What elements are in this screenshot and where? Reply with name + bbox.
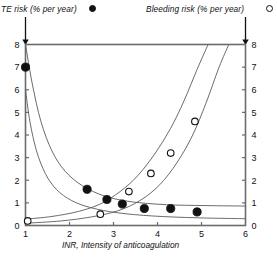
te-risk-data-point <box>118 200 126 208</box>
curve-te-lower-bound <box>26 90 246 219</box>
x-tick-label: 2 <box>67 229 72 239</box>
y-left-tick-label: 0 <box>14 221 19 231</box>
y-left-tick-label: 1 <box>14 198 19 208</box>
curve-te-upper-bound <box>26 45 246 207</box>
bleeding-risk-data-point <box>148 170 155 177</box>
axis-tick-labels: 123456001122334455667788 <box>14 40 256 239</box>
bleeding-risk-data-point <box>126 188 133 195</box>
y-right-tick-label: 6 <box>252 85 257 95</box>
bleeding-risk-data-point <box>167 150 174 157</box>
y-right-tick-label: 0 <box>252 221 257 231</box>
y-left-tick-label: 3 <box>14 153 19 163</box>
x-tick-label: 5 <box>199 229 204 239</box>
y-left-tick-label: 6 <box>14 85 19 95</box>
te-risk-data-point <box>140 204 148 212</box>
te-risk-data-point <box>167 204 175 212</box>
y-right-tick-label: 4 <box>252 130 257 140</box>
x-axis-title: INR, Intensity of anticoagulation <box>62 240 179 250</box>
x-tick-label: 6 <box>243 229 248 239</box>
x-tick-label: 3 <box>111 229 116 239</box>
axis-ticks <box>26 67 246 225</box>
curve-bleeding-lower-bound <box>26 45 229 224</box>
y-left-tick-label: 7 <box>14 62 19 72</box>
curve-bleeding-upper-bound <box>26 45 209 220</box>
chart-figure: TE risk (% per year) Bleeding risk (% pe… <box>0 0 277 257</box>
te-risk-data-point <box>21 63 29 71</box>
y-right-tick-label: 8 <box>252 40 257 50</box>
bleeding-risk-data-point <box>97 211 104 218</box>
legend-arrows <box>22 17 248 45</box>
te-risk-data-point <box>103 195 111 203</box>
y-left-tick-label: 5 <box>14 108 19 118</box>
plot-frame <box>26 45 246 226</box>
y-right-tick-label: 3 <box>252 153 257 163</box>
y-right-tick-label: 7 <box>252 62 257 72</box>
x-tick-label: 1 <box>23 229 28 239</box>
te-risk-data-point <box>193 208 201 216</box>
bleeding-risk-data-point <box>192 118 199 125</box>
te-risk-data-point <box>83 185 91 193</box>
y-left-tick-label: 4 <box>14 130 19 140</box>
plot-canvas: 123456001122334455667788 <box>0 0 277 257</box>
x-tick-label: 4 <box>155 229 160 239</box>
y-right-tick-label: 5 <box>252 108 257 118</box>
y-left-tick-label: 8 <box>14 40 19 50</box>
y-left-tick-label: 2 <box>14 176 19 186</box>
bleeding-risk-data-point <box>24 218 31 225</box>
confidence-curves <box>26 45 246 224</box>
y-right-tick-label: 2 <box>252 176 257 186</box>
y-right-tick-label: 1 <box>252 198 257 208</box>
